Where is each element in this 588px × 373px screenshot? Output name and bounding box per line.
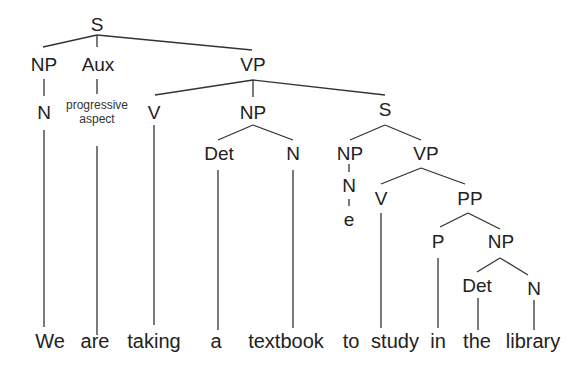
word: taking xyxy=(127,330,180,352)
syntax-tree: S NP Aux VP N progressive aspect V NP S … xyxy=(0,0,588,373)
word: textbook xyxy=(248,330,325,352)
node-np-embedded: NP xyxy=(337,143,363,164)
node-p: P xyxy=(432,231,445,252)
node-aux: Aux xyxy=(82,54,115,75)
node-s-root: S xyxy=(91,14,104,35)
word: the xyxy=(463,330,491,352)
tree-nodes: S NP Aux VP N progressive aspect V NP S … xyxy=(31,14,541,299)
word: in xyxy=(430,330,446,352)
node-v-embedded: V xyxy=(375,188,388,209)
node-s-embedded: S xyxy=(379,99,392,120)
node-vp-embedded: VP xyxy=(413,143,438,164)
node-n-pp: N xyxy=(527,278,541,299)
node-n-empty: N xyxy=(342,175,356,196)
aux-gloss-line2: aspect xyxy=(79,112,115,126)
node-det-object: Det xyxy=(204,143,234,164)
word: a xyxy=(210,330,222,352)
node-vp-main: VP xyxy=(240,54,265,75)
node-v-main: V xyxy=(148,102,161,123)
node-np-pp: NP xyxy=(488,231,514,252)
node-pp: PP xyxy=(457,188,482,209)
tree-edges xyxy=(43,35,534,335)
word: library xyxy=(506,330,560,352)
word: are xyxy=(81,330,110,352)
word: study xyxy=(371,330,419,352)
node-np-object: NP xyxy=(240,102,266,123)
node-n-object: N xyxy=(286,143,300,164)
node-n-subject: N xyxy=(37,102,51,123)
word: to xyxy=(343,330,360,352)
sentence-words: We are taking a textbook to study in the… xyxy=(35,330,560,352)
node-det-pp: Det xyxy=(462,275,492,296)
word: We xyxy=(35,330,65,352)
aux-gloss-line1: progressive xyxy=(66,98,128,112)
node-empty-e: e xyxy=(344,209,355,230)
node-np-subject: NP xyxy=(31,54,57,75)
